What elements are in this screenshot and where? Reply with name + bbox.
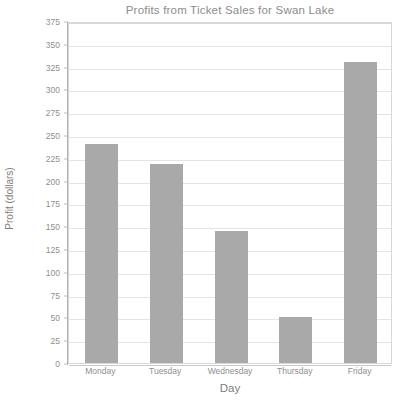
y-axis-tick-label: 125 bbox=[46, 245, 60, 255]
y-axis-tick-label: 150 bbox=[46, 222, 60, 232]
x-axis-tick-label: Tuesday bbox=[149, 366, 181, 376]
y-axis-tick-label: 300 bbox=[46, 85, 60, 95]
y-axis-tick-label: 250 bbox=[46, 131, 60, 141]
y-axis-tick-label: 325 bbox=[46, 63, 60, 73]
y-axis-tick-label: 275 bbox=[46, 108, 60, 118]
bar[interactable] bbox=[150, 164, 183, 363]
bar[interactable] bbox=[344, 62, 377, 363]
y-axis-tick-label: 100 bbox=[46, 268, 60, 278]
x-axis-tick-label: Monday bbox=[85, 366, 115, 376]
y-axis-tick-label: 25 bbox=[51, 336, 60, 346]
x-axis-tick-label: Friday bbox=[348, 366, 372, 376]
y-axis-tick-label: 350 bbox=[46, 40, 60, 50]
bars-layer bbox=[69, 23, 391, 363]
x-axis-tick-label: Thursday bbox=[277, 366, 312, 376]
x-axis-title: Day bbox=[68, 382, 392, 394]
x-axis-tick-label: Wednesday bbox=[208, 366, 253, 376]
y-axis-tick-label: 50 bbox=[51, 313, 60, 323]
chart-title: Profits from Ticket Sales for Swan Lake bbox=[68, 4, 392, 16]
y-axis-tick-label: 375 bbox=[46, 17, 60, 27]
y-axis-tick-label: 0 bbox=[55, 359, 60, 369]
bar[interactable] bbox=[215, 231, 248, 363]
y-axis-tick-label: 75 bbox=[51, 291, 60, 301]
bar-chart: Profits from Ticket Sales for Swan Lake … bbox=[0, 0, 404, 402]
plot-area bbox=[68, 22, 392, 364]
y-axis-tick-labels: 3753503253002752502252001751501251007550… bbox=[0, 22, 68, 364]
bar[interactable] bbox=[279, 317, 312, 363]
bar[interactable] bbox=[85, 144, 118, 363]
y-axis-tick-label: 225 bbox=[46, 154, 60, 164]
x-axis-tick-labels: MondayTuesdayWednesdayThursdayFriday bbox=[68, 366, 392, 382]
y-axis-tick-label: 175 bbox=[46, 199, 60, 209]
y-axis-tick-label: 200 bbox=[46, 177, 60, 187]
